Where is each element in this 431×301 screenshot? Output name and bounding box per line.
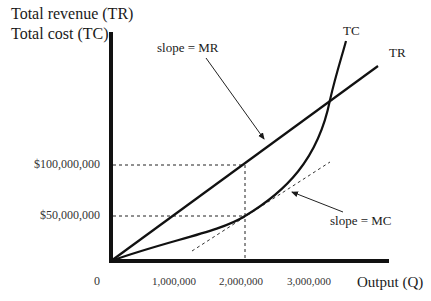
tc-series-label: TC xyxy=(343,24,360,37)
x-axis-title: Output (Q) xyxy=(357,275,423,290)
x-tick-0: 0 xyxy=(94,275,100,287)
y-tick-100m: $100,000,000 xyxy=(34,158,100,170)
mc-arrow xyxy=(292,192,343,212)
x-tick-3m: 3,000,000 xyxy=(287,276,331,287)
y-axis-title-line1: Total revenue (TR) xyxy=(11,6,133,22)
mr-annotation: slope = MR xyxy=(157,41,219,54)
tr-series-label: TR xyxy=(389,46,406,59)
x-tick-1m: 1,000,000 xyxy=(152,276,196,287)
y-axis-title-line2: Total cost (TC) xyxy=(11,26,109,42)
mr-arrow xyxy=(206,58,264,139)
x-tick-2m: 2,000,000 xyxy=(219,276,263,287)
chart-area: Total revenue (TR) Total cost (TC) $100,… xyxy=(0,0,431,301)
mc-annotation: slope = MC xyxy=(330,214,392,227)
y-tick-50m: $50,000,000 xyxy=(40,209,100,221)
